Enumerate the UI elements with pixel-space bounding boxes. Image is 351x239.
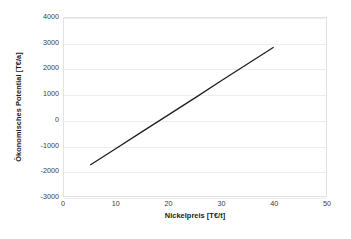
y-tick-label: -2000 xyxy=(25,167,59,175)
y-tick-label: 0 xyxy=(25,116,59,124)
y-tick-label: 3000 xyxy=(25,39,59,47)
y-tick-label: 1000 xyxy=(25,90,59,98)
x-axis-title: Nickelpreis [T€/t] xyxy=(63,211,327,220)
plot-area xyxy=(63,17,327,197)
x-axis-tick-labels: 01020304050 xyxy=(63,200,327,210)
x-tick-label: 10 xyxy=(101,200,131,208)
chart-figure: Ökonomisches Potential [T€/a] -3000-2000… xyxy=(0,0,351,239)
gridline-y--3000 xyxy=(64,198,326,199)
x-tick-label: 50 xyxy=(312,200,342,208)
y-tick-label: 4000 xyxy=(25,13,59,21)
y-tick-label: -1000 xyxy=(25,142,59,150)
x-tick-label: 20 xyxy=(154,200,184,208)
x-tick-label: 30 xyxy=(206,200,236,208)
data-series-svg xyxy=(64,18,326,196)
y-axis-tick-labels: -3000-2000-100001000200030004000 xyxy=(22,17,59,197)
series-line-okonomisches-potential xyxy=(90,47,273,165)
x-tick-label: 0 xyxy=(48,200,78,208)
y-tick-label: 2000 xyxy=(25,64,59,72)
x-tick-label: 40 xyxy=(259,200,289,208)
